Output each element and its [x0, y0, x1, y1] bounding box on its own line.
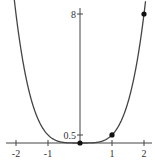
x-tick-label: -2 [12, 148, 20, 159]
y-tick-label: 0.5 [64, 130, 77, 141]
data-point [77, 140, 82, 145]
x-tick-label: -1 [44, 148, 52, 159]
data-point [109, 132, 114, 137]
marked-points [77, 11, 146, 145]
x-tick-label: 2 [142, 148, 147, 159]
y-tick-label: 8 [71, 9, 76, 20]
function-plot: -2 -1 1 2 0.5 8 [0, 0, 155, 162]
x-tick-label: 1 [110, 148, 115, 159]
data-point [141, 11, 146, 16]
